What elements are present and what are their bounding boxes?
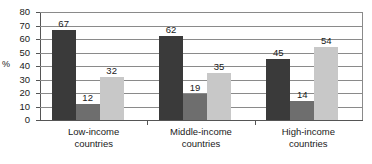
bar-1-2 (76, 104, 100, 120)
bar-1-1 (52, 30, 76, 120)
x-category-label: High-incomecountries (255, 126, 362, 150)
gridline (40, 26, 362, 27)
x-axis-line (40, 120, 363, 121)
bar-2-2 (183, 94, 207, 120)
plot-area: 671232621935451454 (40, 12, 362, 120)
bar-value-label: 45 (260, 48, 296, 58)
bar-value-label: 35 (201, 62, 237, 72)
y-tick-label: 10 (8, 102, 30, 112)
bar-value-label: 32 (94, 66, 130, 76)
bar-3-2 (290, 101, 314, 120)
bar-1-3 (100, 77, 124, 120)
x-category-label: Middle-incomecountries (147, 126, 254, 150)
x-tick-mark (147, 121, 148, 125)
gridline (40, 12, 362, 13)
x-category-label-line: countries (255, 138, 362, 150)
y-tick-label: 70 (8, 21, 30, 31)
bar-value-label: 54 (308, 36, 344, 46)
plot-right-border (362, 12, 363, 121)
y-tick-label: 60 (8, 34, 30, 44)
x-category-label-line: countries (40, 138, 147, 150)
x-category-label-line: Middle-income (147, 126, 254, 138)
y-tick-label: 30 (8, 75, 30, 85)
bar-chart: % 01020304050607080 671232621935451454 L… (0, 0, 372, 164)
y-tick-label: 50 (8, 48, 30, 58)
x-category-label-line: Low-income (40, 126, 147, 138)
y-tick-label: 0 (8, 115, 30, 125)
x-category-label: Low-incomecountries (40, 126, 147, 150)
y-tick-label: 40 (8, 61, 30, 71)
bar-value-label: 67 (46, 19, 82, 29)
bar-2-3 (207, 73, 231, 120)
x-tick-mark (255, 121, 256, 125)
bar-3-3 (314, 47, 338, 120)
x-category-label-line: High-income (255, 126, 362, 138)
bar-value-label: 62 (153, 25, 189, 35)
x-category-label-line: countries (147, 138, 254, 150)
y-tick-label: 80 (8, 7, 30, 17)
bar-2-1 (159, 36, 183, 120)
y-tick-label: 20 (8, 88, 30, 98)
